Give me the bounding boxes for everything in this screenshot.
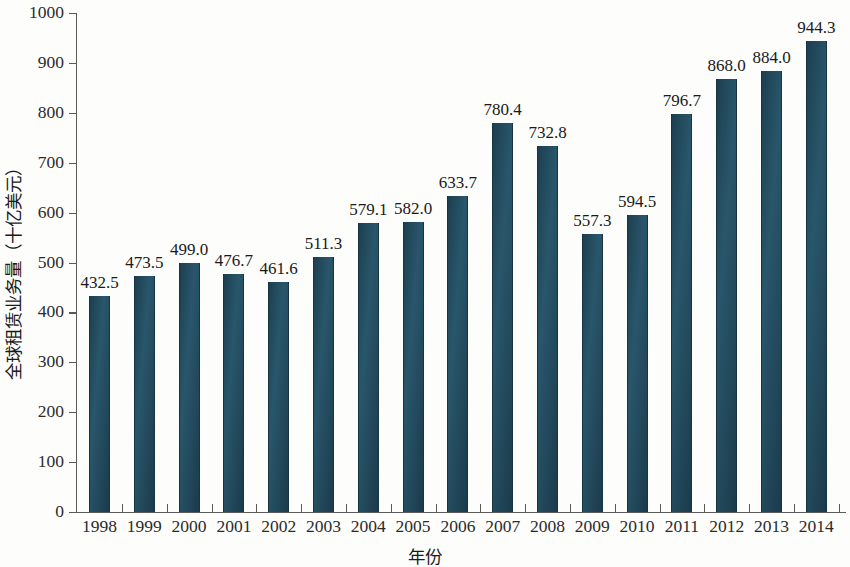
y-axis-tick-mark xyxy=(69,13,77,14)
x-axis-tick-mark xyxy=(525,504,526,513)
bar-value-label: 796.7 xyxy=(663,92,701,109)
y-axis-tick-mark xyxy=(69,462,77,463)
y-axis-tick-mark xyxy=(69,512,77,513)
x-axis-tick-label: 2011 xyxy=(665,518,699,536)
x-axis-tick-label: 2004 xyxy=(351,518,386,536)
x-axis-tick-mark xyxy=(480,504,481,513)
x-axis-tick-label: 2000 xyxy=(172,518,207,536)
y-axis-tick-mark xyxy=(69,312,77,313)
x-axis-tick-mark xyxy=(839,504,840,513)
x-axis-tick-label: 2010 xyxy=(620,518,655,536)
x-axis-tick-mark xyxy=(391,504,392,513)
y-axis-tick-mark xyxy=(69,113,77,114)
y-axis-tick-mark xyxy=(69,412,77,413)
x-axis-tick-mark xyxy=(749,504,750,513)
x-axis-tick-label: 1999 xyxy=(127,518,162,536)
y-axis-tick-mark xyxy=(69,213,77,214)
x-axis-tick-label: 2007 xyxy=(485,518,520,536)
y-axis-tick-mark xyxy=(69,163,77,164)
bar-value-label: 579.1 xyxy=(349,201,387,218)
bar xyxy=(671,114,692,512)
bar-value-label: 780.4 xyxy=(484,101,522,118)
y-axis-tick-mark xyxy=(69,362,77,363)
x-axis-tick-label: 2013 xyxy=(754,518,789,536)
bar xyxy=(179,263,200,512)
bar xyxy=(806,41,827,512)
bar xyxy=(716,79,737,512)
bar xyxy=(537,146,558,512)
bar-value-label: 476.7 xyxy=(215,252,253,269)
bar-value-label: 582.0 xyxy=(394,200,432,217)
y-axis-tick-mark xyxy=(69,63,77,64)
x-axis-tick-label: 2009 xyxy=(575,518,610,536)
x-axis-tick-label: 2002 xyxy=(261,518,296,536)
bar-value-label: 499.0 xyxy=(170,241,208,258)
bar-value-label: 868.0 xyxy=(708,57,746,74)
x-axis-tick-mark xyxy=(212,504,213,513)
bar xyxy=(447,196,468,512)
bar-chart-figure: 01002003004005006007008009001000 432.519… xyxy=(0,0,850,567)
bar xyxy=(89,296,110,512)
bar xyxy=(403,222,424,512)
y-axis-tick-mark xyxy=(69,263,77,264)
bar-value-label: 511.3 xyxy=(305,235,343,252)
bar xyxy=(492,123,513,512)
bar-value-label: 473.5 xyxy=(125,254,163,271)
x-axis-tick-mark xyxy=(615,504,616,513)
x-axis-tick-label: 2012 xyxy=(709,518,744,536)
bar-value-label: 594.5 xyxy=(618,193,656,210)
x-axis-tick-mark xyxy=(167,504,168,513)
bar xyxy=(134,276,155,512)
x-axis-tick-mark xyxy=(570,504,571,513)
x-axis-tick-label: 2005 xyxy=(396,518,431,536)
bar-value-label: 633.7 xyxy=(439,174,477,191)
x-axis-title: 年份 xyxy=(0,543,850,567)
x-axis-tick-label: 2006 xyxy=(440,518,475,536)
x-axis-tick-label: 2008 xyxy=(530,518,565,536)
x-axis-tick-mark xyxy=(301,504,302,513)
x-axis-tick-mark xyxy=(436,504,437,513)
bar xyxy=(358,223,379,512)
x-axis-tick-label: 2001 xyxy=(216,518,251,536)
bar-value-label: 944.3 xyxy=(797,19,835,36)
bar xyxy=(268,282,289,512)
bar xyxy=(627,215,648,512)
bar xyxy=(313,257,334,512)
y-axis-title: 全球租赁业务量（十亿美元） xyxy=(0,20,25,520)
x-axis-tick-label: 2014 xyxy=(799,518,834,536)
bar xyxy=(223,274,244,512)
x-axis-tick-mark xyxy=(122,504,123,513)
x-axis-tick-mark xyxy=(704,504,705,513)
bar-value-label: 884.0 xyxy=(752,49,790,66)
x-axis-tick-mark xyxy=(256,504,257,513)
bar-value-label: 461.6 xyxy=(260,260,298,277)
x-axis-tick-mark xyxy=(794,504,795,513)
bar xyxy=(582,234,603,512)
x-axis-tick-label: 2003 xyxy=(306,518,341,536)
bar-value-label: 732.8 xyxy=(528,124,566,141)
bar-value-label: 432.5 xyxy=(80,274,118,291)
bar xyxy=(761,71,782,512)
x-axis-tick-label: 1998 xyxy=(82,518,117,536)
x-axis-line xyxy=(76,512,846,513)
x-axis-tick-mark xyxy=(660,504,661,513)
bar-value-label: 557.3 xyxy=(573,212,611,229)
x-axis-tick-mark xyxy=(346,504,347,513)
